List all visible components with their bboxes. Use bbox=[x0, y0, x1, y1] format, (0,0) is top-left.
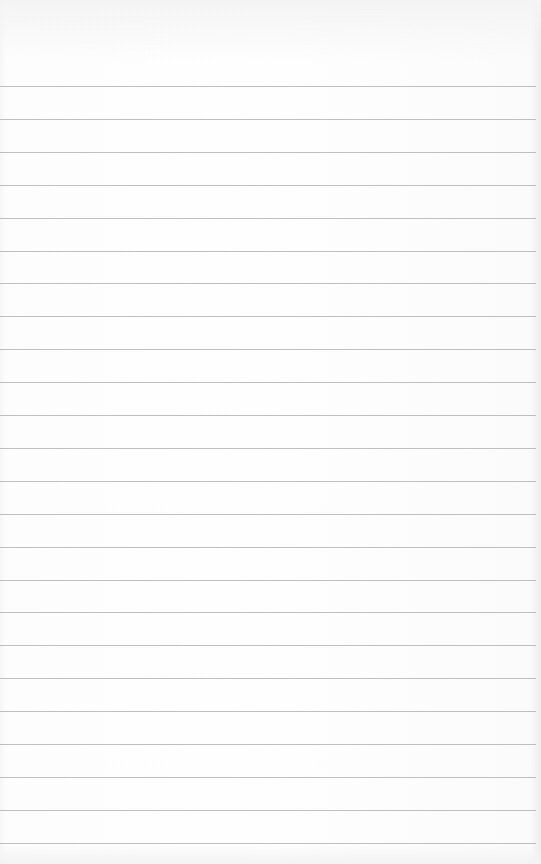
ruled-line bbox=[0, 152, 536, 153]
ruled-line bbox=[0, 349, 536, 350]
ruled-line bbox=[0, 251, 536, 252]
ruled-line bbox=[0, 316, 536, 317]
ruled-line bbox=[0, 645, 536, 646]
ruled-line bbox=[0, 415, 536, 416]
ruled-line bbox=[0, 547, 536, 548]
ruled-line bbox=[0, 119, 536, 120]
ruled-line bbox=[0, 86, 536, 87]
ruled-line bbox=[0, 448, 536, 449]
ruled-line bbox=[0, 744, 536, 745]
ruled-line bbox=[0, 283, 536, 284]
ruled-line bbox=[0, 843, 536, 844]
lined-paper bbox=[0, 0, 541, 864]
ruled-line bbox=[0, 777, 536, 778]
ruled-line bbox=[0, 678, 536, 679]
ruled-line bbox=[0, 218, 536, 219]
ruled-line bbox=[0, 481, 536, 482]
ruled-line bbox=[0, 514, 536, 515]
ruled-line bbox=[0, 612, 536, 613]
ruled-line bbox=[0, 810, 536, 811]
ruled-line bbox=[0, 580, 536, 581]
ruled-line bbox=[0, 185, 536, 186]
ruled-line bbox=[0, 382, 536, 383]
ruled-line bbox=[0, 711, 536, 712]
